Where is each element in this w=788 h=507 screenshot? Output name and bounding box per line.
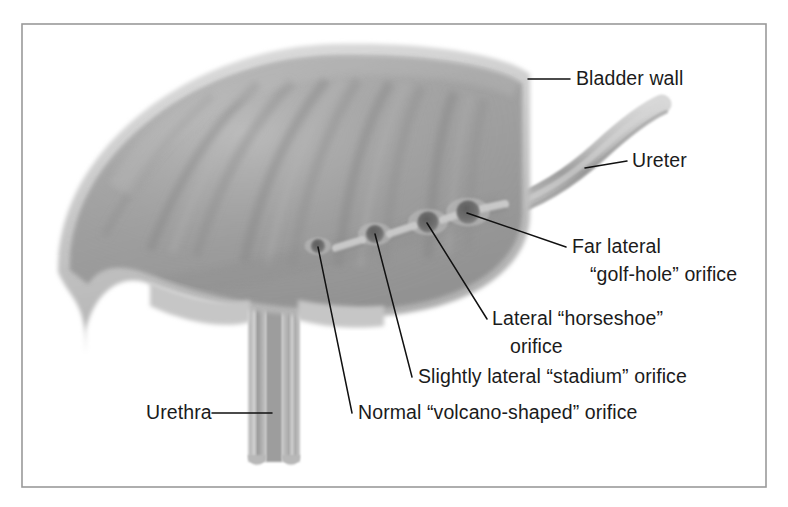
far-lateral-golf-hole-label-line-1: Far lateral	[572, 235, 661, 257]
ureter-label: Ureter	[632, 149, 687, 171]
figure-root: Bladder wallUreterFar lateral“golf-hole”…	[0, 0, 788, 507]
bladder-diagram: Bladder wallUreterFar lateral“golf-hole”…	[0, 0, 788, 507]
bladder-wall-label-line-1: Bladder wall	[576, 67, 683, 89]
urethra-label: Urethra	[146, 401, 212, 423]
orifice-far-lateral	[457, 201, 480, 224]
urethra-structure	[248, 300, 300, 465]
normal-volcano-shaped-label-line-1: Normal “volcano-shaped” orifice	[358, 401, 637, 423]
slightly-lateral-stadium-label-line-1: Slightly lateral “stadium” orifice	[418, 365, 687, 387]
normal-volcano-shaped-label: Normal “volcano-shaped” orifice	[358, 401, 637, 423]
ureter-label-line-1: Ureter	[632, 149, 687, 171]
far-lateral-golf-hole-label: Far lateral“golf-hole” orifice	[572, 235, 737, 285]
urethra-label-line-1: Urethra	[146, 401, 212, 423]
slightly-lateral-stadium-label: Slightly lateral “stadium” orifice	[418, 365, 687, 387]
lateral-horseshoe-label: Lateral “horseshoe”orifice	[492, 307, 663, 357]
far-lateral-golf-hole-label-line-2: “golf-hole” orifice	[590, 263, 737, 285]
bladder-wall-label: Bladder wall	[576, 67, 683, 89]
orifice-normal-volcano	[311, 239, 325, 253]
orifice-lateral-horseshoe	[418, 212, 439, 233]
lateral-horseshoe-label-line-2: orifice	[510, 335, 563, 357]
lateral-horseshoe-label-line-1: Lateral “horseshoe”	[492, 307, 663, 329]
